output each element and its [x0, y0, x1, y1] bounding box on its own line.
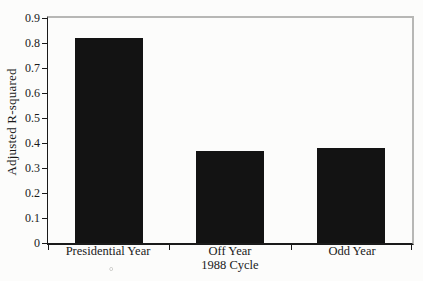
y-tick-label-0: 0 [10, 236, 40, 250]
y-tick-label-0.7: 0.7 [10, 61, 40, 75]
y-tick-label-0.8: 0.8 [10, 36, 40, 50]
plot-area: 00.10.20.30.40.50.60.70.80.9 [47, 16, 414, 245]
scan-artifact-mark: ° [109, 266, 113, 277]
y-tick-0.5 [42, 118, 47, 119]
y-tick-0.1 [42, 218, 47, 219]
y-tick-label-0.2: 0.2 [10, 186, 40, 200]
y-tick-label-0.6: 0.6 [10, 86, 40, 100]
bar-off-year [196, 151, 264, 244]
y-tick-0.9 [42, 18, 47, 19]
y-tick-0.7 [42, 68, 47, 69]
x-axis-title: 1988 Cycle [47, 258, 413, 272]
y-tick-0.2 [42, 193, 47, 194]
y-tick-0.3 [42, 168, 47, 169]
x-category-label-odd-year: Odd Year [291, 244, 413, 258]
bar-presidential-year [75, 38, 143, 243]
x-axis-category-labels: Presidential YearOff YearOdd Year [47, 244, 413, 258]
y-tick-0.8 [42, 43, 47, 44]
x-category-label-off-year: Off Year [169, 244, 291, 258]
y-tick-label-0.9: 0.9 [10, 11, 40, 25]
y-tick-label-0.5: 0.5 [10, 111, 40, 125]
bar-odd-year [317, 148, 385, 243]
y-tick-label-0.3: 0.3 [10, 161, 40, 175]
y-tick-0.4 [42, 143, 47, 144]
y-tick-label-0.1: 0.1 [10, 211, 40, 225]
y-tick-0.6 [42, 93, 47, 94]
x-category-label-presidential-year: Presidential Year [47, 244, 169, 258]
bar-chart-figure: Adjusted R-squared 00.10.20.30.40.50.60.… [0, 0, 423, 281]
y-tick-label-0.4: 0.4 [10, 136, 40, 150]
